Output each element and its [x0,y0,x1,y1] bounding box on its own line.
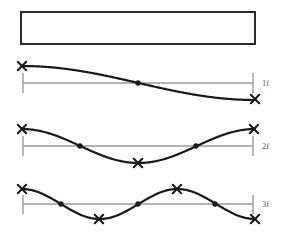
node-dot-marker [135,201,140,206]
undeformed-beam [21,12,255,44]
mode-label-1f: 1f [262,78,269,88]
mode-label-3f: 3f [262,199,269,209]
node-dot-marker [212,201,217,206]
node-dot-marker [77,143,82,148]
node-dot-marker [135,80,140,85]
mode-shape-diagram: 1f 2f 3f [0,0,286,238]
node-dot-marker [58,201,63,206]
node-dot-marker [193,143,198,148]
mode-label-2f: 2f [262,141,269,151]
